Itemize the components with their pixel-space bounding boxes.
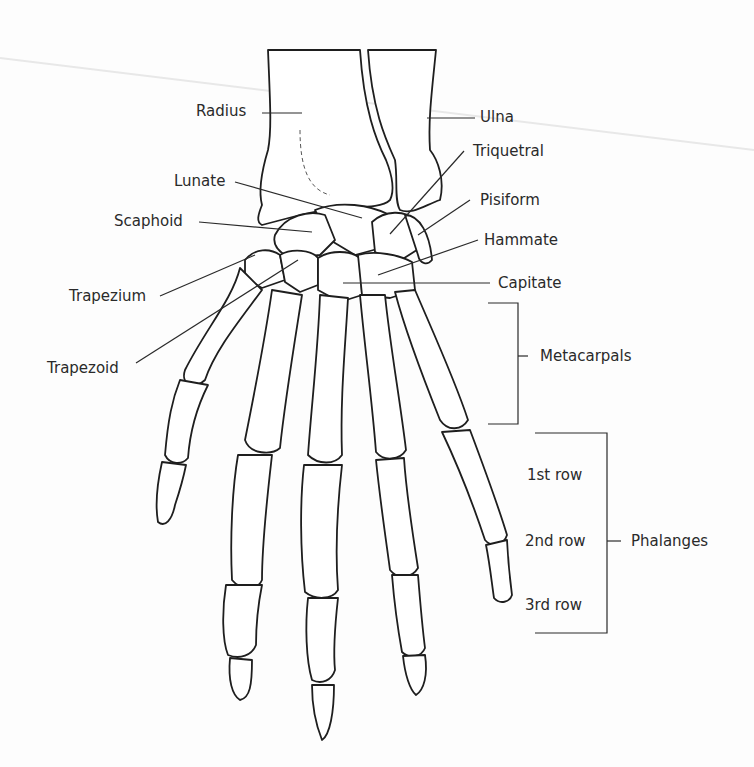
label-phalanges-3rd-row: 3rd row xyxy=(525,598,582,613)
label-phalanges: Phalanges xyxy=(631,534,708,549)
label-ulna: Ulna xyxy=(480,110,514,125)
label-metacarpals: Metacarpals xyxy=(540,349,632,364)
label-pisiform: Pisiform xyxy=(480,193,540,208)
label-trapezoid: Trapezoid xyxy=(47,361,119,376)
label-lunate: Lunate xyxy=(174,174,225,189)
label-triquetral: Triquetral xyxy=(473,144,544,159)
label-trapezium: Trapezium xyxy=(69,289,146,304)
label-phalanges-2nd-row: 2nd row xyxy=(525,534,586,549)
label-capitate: Capitate xyxy=(498,276,562,291)
trapezoid-bone xyxy=(280,251,318,292)
label-radius: Radius xyxy=(196,104,246,119)
capitate-bone xyxy=(318,252,362,302)
label-hammate: Hammate xyxy=(484,233,558,248)
label-scaphoid: Scaphoid xyxy=(114,214,183,229)
hand-skeleton-diagram: Radius Ulna Triquetral Lunate Pisiform S… xyxy=(0,0,754,767)
label-phalanges-1st-row: 1st row xyxy=(527,468,582,483)
hand-bones-illustration xyxy=(0,0,754,767)
